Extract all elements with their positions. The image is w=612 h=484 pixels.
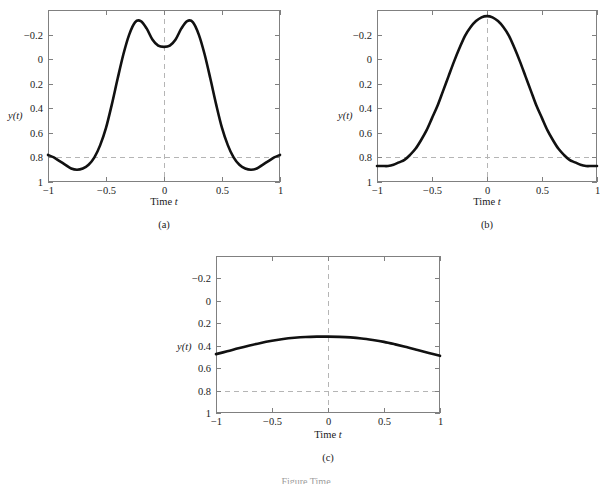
y-tick-label: −0.2 — [353, 30, 372, 41]
x-tick-label: 0.5 — [536, 185, 549, 196]
x-axis-title-b: Time t — [377, 196, 597, 207]
y-tick-label: 0.6 — [359, 128, 372, 139]
panel-caption-a: (a) — [48, 219, 280, 230]
x-tick-label: 0 — [326, 416, 331, 427]
x-axis-title-b-text: Time — [473, 196, 497, 207]
y-axis-label-c: y(t) — [177, 341, 192, 352]
panel-caption-c: (c) — [216, 452, 440, 463]
x-tick-label: 0 — [162, 185, 167, 196]
x-tick-label: 1 — [278, 185, 283, 196]
x-tick-label: 0 — [485, 185, 490, 196]
plot-canvas-c: 10.80.60.40.20−0.2−1−0.500.51 — [216, 256, 440, 413]
x-axis-title-a-text: Time — [150, 196, 174, 207]
x-tick-label: −0.5 — [263, 416, 282, 427]
x-tick-label: −1 — [372, 185, 383, 196]
y-tick-label: 0.4 — [30, 103, 44, 114]
x-tick-label: −0.5 — [97, 185, 116, 196]
y-tick-label: 0.2 — [198, 318, 211, 329]
x-axis-title-a-var: t — [175, 196, 178, 207]
y-axis-label-a: y(t) — [8, 110, 23, 121]
plot-panel-c: 10.80.60.40.20−0.2−1−0.500.51 — [216, 256, 440, 413]
y-tick-label: 0.8 — [198, 386, 211, 397]
y-tick-label: 0 — [38, 54, 43, 65]
x-tick-label: 1 — [595, 185, 600, 196]
x-tick-label: −1 — [211, 416, 222, 427]
y-tick-label: 0.4 — [198, 341, 212, 352]
x-tick-label: 0.5 — [216, 185, 229, 196]
x-axis-title-c-text: Time — [314, 429, 338, 440]
figure-caption: Figure Time — [0, 475, 612, 484]
x-axis-title-c-var: t — [339, 429, 342, 440]
y-tick-label: 0.2 — [30, 79, 43, 90]
x-tick-label: −0.5 — [423, 185, 442, 196]
x-tick-label: −1 — [43, 185, 54, 196]
plot-canvas-b: 10.80.60.40.20−0.2−1−0.500.51 — [377, 10, 597, 182]
y-axis-label-b: y(t) — [338, 110, 353, 121]
y-tick-label: 0.6 — [30, 128, 43, 139]
y-tick-label: 0.2 — [359, 79, 372, 90]
x-axis-title-c: Time t — [216, 429, 440, 440]
y-tick-label: −0.2 — [24, 30, 43, 41]
plot-canvas-a: 10.80.60.40.20−0.2−1−0.500.51 — [48, 10, 280, 182]
y-tick-label: 0.6 — [198, 363, 211, 374]
plot-frame — [217, 257, 440, 413]
x-tick-label: 0.5 — [378, 416, 391, 427]
y-tick-label: 0 — [206, 296, 211, 307]
y-tick-label: 0.4 — [359, 103, 373, 114]
y-tick-label: −0.2 — [192, 273, 211, 284]
x-axis-title-a: Time t — [48, 196, 280, 207]
x-tick-label: 1 — [438, 416, 443, 427]
x-axis-title-b-var: t — [498, 196, 501, 207]
panel-caption-b: (b) — [377, 219, 597, 230]
y-tick-label: 0.8 — [30, 152, 43, 163]
plot-panel-a: 10.80.60.40.20−0.2−1−0.500.51 — [48, 10, 280, 182]
plot-panel-b: 10.80.60.40.20−0.2−1−0.500.51 — [377, 10, 597, 182]
y-tick-label: 0.8 — [359, 152, 372, 163]
y-tick-label: 0 — [367, 54, 372, 65]
